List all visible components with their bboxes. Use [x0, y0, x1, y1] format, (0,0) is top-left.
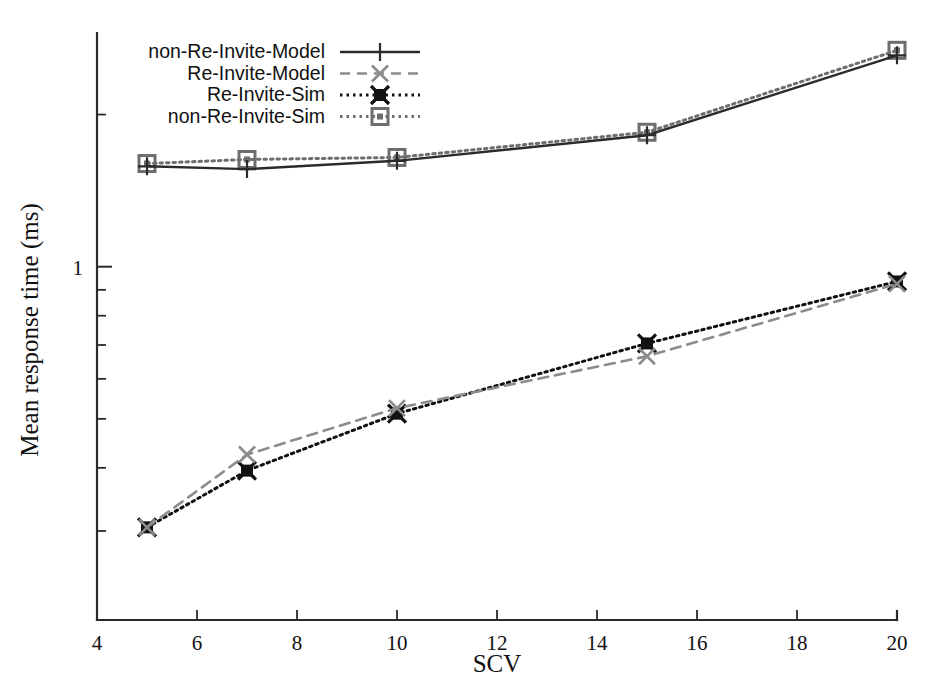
legend-label: Re-Invite-Model — [187, 62, 325, 84]
marker-plus — [888, 46, 906, 64]
marker-x — [239, 447, 255, 463]
series-line — [147, 281, 897, 527]
legend: non-Re-Invite-ModelRe-Invite-ModelRe-Inv… — [148, 40, 420, 127]
marker-filled-square — [238, 462, 256, 480]
x-ticklabel: 4 — [92, 631, 103, 655]
y-axis-ticks — [97, 115, 112, 620]
x-axis-ticks — [97, 610, 897, 620]
legend-sample-non-re-invite-model — [340, 43, 420, 61]
legend-sample-non-re-invite-sim — [340, 109, 420, 125]
x-ticklabel: 14 — [587, 631, 609, 655]
y-axis-title: Mean response time (ms) — [16, 203, 44, 456]
marker-filled-square — [888, 272, 906, 290]
series-re-invite-model — [139, 276, 905, 536]
marker-plus — [238, 160, 256, 178]
x-ticklabel: 6 — [192, 631, 203, 655]
legend-sample-re-invite-sim — [340, 86, 420, 104]
chart-plot: 1 468101214161820 SCV Mean response time… — [0, 0, 931, 690]
x-ticklabel: 10 — [387, 631, 408, 655]
series-re-invite-sim — [138, 272, 906, 536]
y-axis-ticklabels: 1 — [73, 256, 84, 280]
x-ticklabel: 16 — [687, 631, 708, 655]
marker-plus — [371, 43, 389, 61]
x-ticklabel: 18 — [787, 631, 808, 655]
x-ticklabel: 8 — [292, 631, 303, 655]
legend-sample-re-invite-model — [340, 66, 420, 82]
series-line — [147, 284, 897, 528]
y-ticklabel: 1 — [73, 256, 84, 280]
figure-canvas: 1 468101214161820 SCV Mean response time… — [0, 0, 931, 690]
x-axis-title: SCV — [473, 650, 522, 677]
legend-label: non-Re-Invite-Sim — [168, 105, 325, 127]
legend-label: Re-Invite-Sim — [207, 83, 325, 105]
legend-label: non-Re-Invite-Model — [148, 40, 325, 62]
x-ticklabel: 20 — [887, 631, 908, 655]
marker-plus — [388, 152, 406, 170]
